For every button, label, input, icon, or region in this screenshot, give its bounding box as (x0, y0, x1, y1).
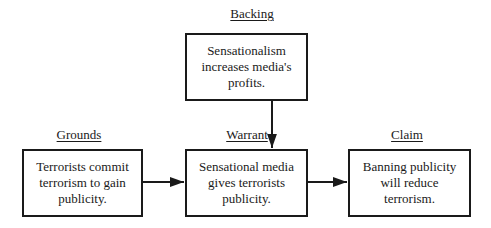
warrant-box: Sensational media gives terrorists publi… (185, 149, 308, 217)
claim-label: Claim (377, 127, 437, 143)
claim-box: Banning publicity will reduce terrorism. (348, 149, 471, 217)
warrant-text: Sensational media gives terrorists publi… (195, 159, 298, 207)
grounds-label: Grounds (49, 127, 109, 143)
grounds-text: Terrorists commit terrorism to gain publ… (32, 159, 133, 207)
backing-box: Sensationalism increases media's profits… (185, 33, 308, 101)
warrant-label: Warrant (217, 127, 277, 143)
backing-label: Backing (222, 6, 282, 22)
backing-text: Sensationalism increases media's profits… (195, 43, 298, 91)
claim-text: Banning publicity will reduce terrorism. (358, 159, 461, 207)
grounds-box: Terrorists commit terrorism to gain publ… (22, 149, 143, 217)
